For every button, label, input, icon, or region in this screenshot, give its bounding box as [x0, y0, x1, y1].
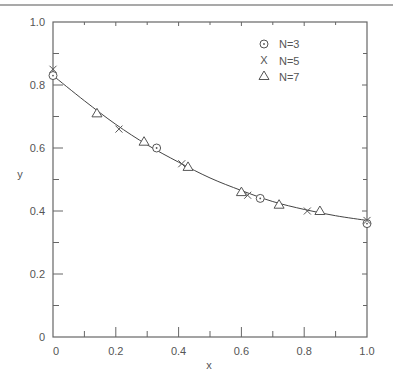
- y-tick-label: 0.2: [30, 268, 45, 280]
- circle-dot-marker-icon: [153, 144, 161, 152]
- x-tick-label: 0: [53, 345, 59, 357]
- chart: 00.20.40.60.81.000.20.40.60.81.0 N=3XN=5…: [0, 0, 393, 387]
- x-tick-label: 0.6: [234, 345, 249, 357]
- fitted-curve: [53, 76, 367, 221]
- tick-labels: 00.20.40.60.81.000.20.40.60.81.0: [30, 16, 375, 357]
- x-tick-label: 1.0: [359, 345, 374, 357]
- plot-frame: [53, 22, 367, 337]
- legend-label: N=3: [279, 38, 300, 50]
- x-marker-icon: X: [260, 54, 268, 66]
- circle-dot-marker-icon: [260, 40, 268, 48]
- x-tick-label: 0.8: [297, 345, 312, 357]
- x-axis-label: x: [206, 359, 212, 371]
- y-tick-label: 0.8: [30, 79, 45, 91]
- legend: N=3XN=5N=7: [259, 38, 300, 83]
- x-tick-label: 0.2: [108, 345, 123, 357]
- triangle-marker-icon: [259, 71, 269, 80]
- y-tick-label: 0.4: [30, 205, 45, 217]
- y-tick-label: 0: [39, 331, 45, 343]
- circle-dot-marker-icon: [256, 194, 264, 202]
- x-tick-label: 0.4: [171, 345, 186, 357]
- axes-frame: [53, 22, 367, 337]
- y-tick-label: 0.6: [30, 142, 45, 154]
- legend-label: N=5: [279, 55, 300, 67]
- data-markers: [49, 66, 371, 228]
- x-marker-icon: [178, 160, 185, 167]
- y-axis-label: y: [17, 168, 23, 180]
- axis-ticks: [53, 22, 367, 337]
- triangle-marker-icon: [315, 206, 325, 215]
- y-tick-label: 1.0: [30, 16, 45, 28]
- legend-label: N=7: [279, 71, 300, 83]
